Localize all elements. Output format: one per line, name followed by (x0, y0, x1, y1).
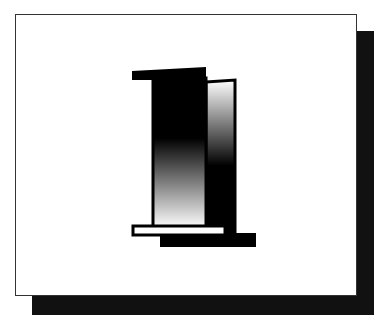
numeral-one-graphic (0, 0, 389, 327)
back-column (206, 80, 235, 236)
main-stem (153, 78, 206, 228)
base-serif (133, 226, 225, 235)
